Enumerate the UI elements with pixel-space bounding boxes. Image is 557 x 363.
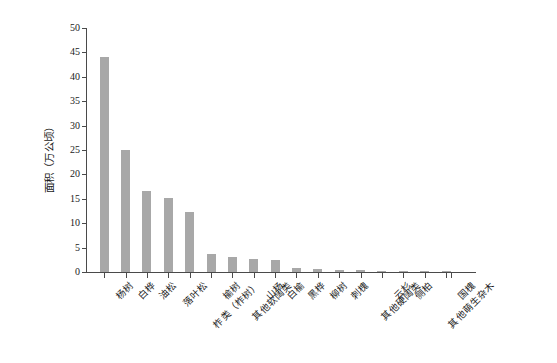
bar: [185, 212, 194, 273]
x-tick-label: 油松: [157, 280, 179, 302]
bar: [420, 271, 429, 272]
bar: [121, 150, 130, 272]
bar: [399, 271, 408, 272]
bar: [164, 198, 173, 272]
x-tick-label: 白桦: [135, 280, 157, 302]
y-tick-mark: [82, 150, 87, 151]
x-tick-mark: [275, 273, 276, 278]
bar: [228, 257, 237, 272]
y-axis-title: 面积（万公顷）: [41, 68, 56, 248]
y-tick-mark: [82, 223, 87, 224]
y-tick-mark: [82, 77, 87, 78]
x-tick-mark: [318, 273, 319, 278]
y-tick-label: 0: [75, 265, 80, 278]
bar: [335, 270, 344, 272]
x-tick-mark: [296, 273, 297, 278]
bar: [142, 191, 151, 272]
x-tick-label: 柳树: [328, 280, 350, 302]
y-tick-mark: [82, 101, 87, 102]
bar: [207, 254, 216, 272]
y-tick-label: 5: [75, 241, 80, 254]
x-tick-mark: [168, 273, 169, 278]
y-tick-label: 20: [70, 167, 80, 180]
x-tick-mark-end: [451, 273, 452, 278]
bar: [249, 259, 258, 272]
x-tick-mark: [403, 273, 404, 278]
x-tick-label: 杨树: [114, 280, 136, 302]
bar: [271, 260, 280, 272]
bar: [292, 268, 301, 272]
x-tick-label: 刺槐: [349, 280, 371, 302]
y-tick-label: 50: [70, 21, 80, 34]
y-tick-label: 10: [70, 216, 80, 229]
x-tick-mark: [190, 273, 191, 278]
bar: [356, 270, 365, 272]
y-tick-mark: [82, 199, 87, 200]
x-tick-mark: [446, 273, 447, 278]
bar: [313, 269, 322, 272]
y-tick-label: 25: [70, 143, 80, 156]
plot-area: 05101520253035404550 杨树白桦油松落叶松柞类（柞树）榆树其他…: [86, 28, 476, 272]
bar: [442, 271, 451, 272]
y-tick-label: 40: [70, 70, 80, 83]
x-axis-line: [86, 272, 476, 273]
y-tick-mark: [82, 52, 87, 53]
y-tick-label: 45: [70, 45, 80, 58]
x-tick-mark: [232, 273, 233, 278]
y-tick-label: 35: [70, 94, 80, 107]
x-tick-mark: [339, 273, 340, 278]
bar: [377, 271, 386, 272]
x-tick-mark: [104, 273, 105, 278]
x-tick-mark: [254, 273, 255, 278]
x-tick-mark: [361, 273, 362, 278]
y-tick-mark: [82, 248, 87, 249]
x-tick-label: 落叶松: [181, 280, 210, 309]
y-tick-mark: [82, 28, 87, 29]
x-tick-label: 黑桦: [306, 280, 328, 302]
y-tick-label: 15: [70, 192, 80, 205]
bar-chart-figure: 面积（万公顷） 05101520253035404550 杨树白桦油松落叶松柞类…: [0, 0, 557, 363]
y-tick-mark: [82, 174, 87, 175]
x-tick-mark: [211, 273, 212, 278]
x-tick-mark: [425, 273, 426, 278]
x-tick-mark: [147, 273, 148, 278]
bar: [100, 57, 109, 272]
y-tick-label: 30: [70, 119, 80, 132]
y-tick-mark: [82, 126, 87, 127]
x-tick-mark: [126, 273, 127, 278]
x-tick-mark: [382, 273, 383, 278]
y-tick-mark: [82, 272, 87, 273]
